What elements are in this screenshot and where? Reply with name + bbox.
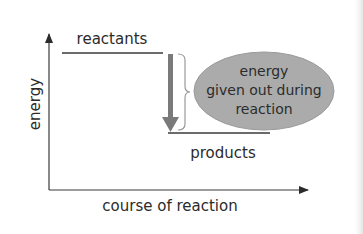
energy-diagram: energy course of reaction reactants prod… bbox=[0, 0, 363, 234]
ellipse-text-line-3: reaction bbox=[235, 101, 292, 117]
curly-brace bbox=[178, 54, 190, 130]
ellipse-text-line-1: energy bbox=[240, 63, 289, 79]
y-axis-label: energy bbox=[26, 78, 44, 130]
products-label: products bbox=[190, 144, 256, 162]
reactants-label: reactants bbox=[77, 30, 148, 48]
x-axis-label: course of reaction bbox=[102, 197, 237, 215]
energy-down-arrow bbox=[162, 54, 179, 132]
ellipse-text-line-2: given out during bbox=[206, 82, 322, 98]
